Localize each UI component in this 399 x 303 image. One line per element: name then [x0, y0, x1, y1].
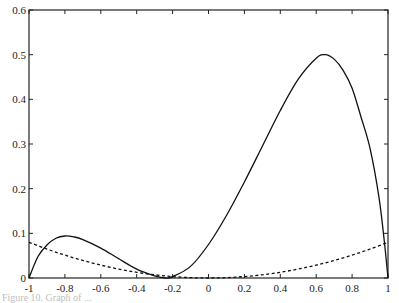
figure-caption: Figure 10. Graph of ... [2, 292, 91, 303]
x-tick-label: -0.6 [92, 282, 110, 294]
plot-frame [29, 10, 388, 278]
x-tick-label: 0 [206, 282, 212, 294]
solid-curve [29, 55, 388, 279]
y-tick-label: 0.2 [12, 183, 26, 195]
y-tick-label: 0.4 [12, 93, 26, 105]
line-chart: -1-0.8-0.6-0.4-0.200.20.40.60.81 00.10.2… [0, 0, 399, 303]
x-tick-label: -0.2 [164, 282, 181, 294]
x-tick-label: 0.4 [273, 282, 287, 294]
x-tick-label: 0.8 [345, 282, 359, 294]
y-tick-label: 0.5 [12, 49, 26, 61]
axis-ticks [29, 10, 388, 278]
data-series [29, 55, 388, 279]
y-tick-label: 0.3 [12, 138, 26, 150]
x-tick-label: -0.4 [128, 282, 146, 294]
y-axis-tick-labels: 00.10.20.30.40.50.6 [12, 4, 26, 284]
y-tick-label: 0.6 [12, 4, 26, 16]
x-tick-label: 0.6 [309, 282, 323, 294]
plot-area-border [29, 10, 388, 278]
y-tick-label: 0 [21, 272, 27, 284]
x-tick-label: 1 [385, 282, 391, 294]
y-tick-label: 0.1 [12, 227, 26, 239]
x-tick-label: 0.2 [238, 282, 252, 294]
dashed-curve [29, 242, 388, 278]
